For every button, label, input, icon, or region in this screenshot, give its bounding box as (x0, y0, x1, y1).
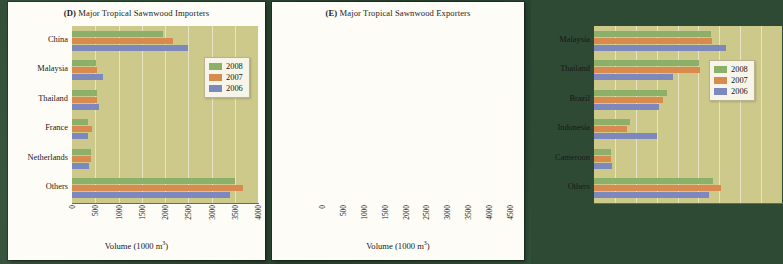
bar-malaysia-2007 (72, 67, 97, 73)
bar-malaysia-2008 (72, 60, 96, 66)
x-axis-title-text-d: Volume (1000 m (105, 241, 163, 251)
bar-china-2008 (72, 31, 163, 37)
gridline (657, 26, 658, 203)
x-axis-title-end-e: ) (427, 241, 430, 251)
bar-brazil-2007 (594, 97, 663, 103)
legend-item-2007: 2007 (714, 75, 748, 86)
gridline (678, 26, 679, 203)
category-label-cameroon: Cameroon (530, 153, 590, 162)
gridline (188, 26, 189, 203)
category-label-netherlands: Netherlands (8, 153, 68, 162)
bar-cameroon-2008 (594, 149, 611, 155)
gridline (636, 26, 637, 203)
bar-thailand-2008 (72, 90, 97, 96)
chart-label-e: (E) (325, 8, 337, 18)
x-tick-4500: 4500 (506, 205, 515, 220)
legend-item-2008: 2008 (209, 61, 243, 72)
plot-area-importers (72, 26, 258, 203)
legend-swatch-2006 (209, 85, 222, 92)
legend-item-2006: 2006 (714, 86, 748, 97)
bar-indonesia-2007 (594, 126, 627, 132)
bar-indonesia-2006 (594, 133, 657, 139)
bar-malaysia-2007 (594, 38, 712, 44)
bar-thailand-2007 (72, 97, 97, 103)
legend-swatch-2007 (209, 74, 222, 81)
legend-label-2006: 2006 (731, 87, 748, 96)
legend-label-2008: 2008 (226, 62, 243, 71)
bar-others-2006 (72, 192, 230, 198)
gridline (235, 26, 236, 203)
legend-label-2007: 2007 (226, 73, 243, 82)
chart-title-text-e: Major Tropical Sawnwood Exporters (337, 8, 470, 18)
category-label-others: Others (530, 182, 590, 191)
x-tick-4000: 4000 (254, 205, 263, 220)
x-tick-4000: 4000 (485, 205, 494, 220)
plot-area-exporters (594, 26, 782, 203)
legend-swatch-2008 (209, 63, 222, 70)
x-tick-1500: 1500 (137, 205, 146, 220)
legend-label-2008: 2008 (731, 65, 748, 74)
category-label-malaysia: Malaysia (8, 64, 68, 73)
gridline (95, 26, 96, 203)
x-tick-500: 500 (338, 205, 347, 216)
chart-label-d: (D) (64, 8, 76, 18)
legend-exporters: 200820072006 (709, 60, 755, 101)
x-axis-title-d: Volume (1000 m3) (8, 240, 265, 251)
x-axis-title-text-e: Volume (1000 m (366, 241, 424, 251)
legend-item-2006: 2006 (209, 83, 243, 94)
category-label-indonesia: Indonesia (530, 123, 590, 132)
gridline (142, 26, 143, 203)
gridline (740, 26, 741, 203)
bar-thailand-2006 (72, 104, 99, 110)
x-axis-title-end-d: ) (165, 241, 168, 251)
gridline (698, 26, 699, 203)
category-label-france: France (8, 123, 68, 132)
bar-others-2008 (594, 178, 713, 184)
chart-panel-exporters: (E) Major Tropical Sawnwood Exporters Ma… (272, 2, 524, 260)
x-tick-1500: 1500 (380, 205, 389, 220)
x-tick-2000: 2000 (401, 205, 410, 220)
gridline (119, 26, 120, 203)
bar-netherlands-2006 (72, 163, 89, 169)
x-tick-3500: 3500 (230, 205, 239, 220)
bar-thailand-2008 (594, 60, 699, 66)
x-tick-0: 0 (318, 205, 327, 209)
bar-china-2007 (72, 38, 173, 44)
x-axis-title-e: Volume (1000 m3) (272, 240, 524, 251)
bar-netherlands-2007 (72, 156, 91, 162)
legend-label-2006: 2006 (226, 84, 243, 93)
x-tick-2000: 2000 (161, 205, 170, 220)
bar-thailand-2006 (594, 74, 673, 80)
chart-title-d: (D) Major Tropical Sawnwood Importers (8, 8, 265, 18)
bar-france-2006 (72, 133, 88, 139)
bar-france-2007 (72, 126, 92, 132)
x-axis-line-e (594, 203, 783, 204)
legend-label-2007: 2007 (731, 76, 748, 85)
legend-swatch-2006 (714, 88, 727, 95)
category-label-malaysia: Malaysia (530, 35, 590, 44)
gridline (719, 26, 720, 203)
legend-swatch-2008 (714, 66, 727, 73)
legend-item-2007: 2007 (209, 72, 243, 83)
x-tick-3000: 3000 (443, 205, 452, 220)
x-tick-3500: 3500 (464, 205, 473, 220)
category-label-china: China (8, 35, 68, 44)
x-tick-1000: 1000 (114, 205, 123, 220)
x-tick-0: 0 (68, 205, 77, 209)
x-tick-1000: 1000 (359, 205, 368, 220)
bar-netherlands-2008 (72, 149, 91, 155)
category-label-thailand: Thailand (530, 64, 590, 73)
bar-indonesia-2008 (594, 119, 630, 125)
gridline (212, 26, 213, 203)
bar-france-2008 (72, 119, 88, 125)
gridline (165, 26, 166, 203)
category-label-thailand: Thailand (8, 94, 68, 103)
legend-item-2008: 2008 (714, 64, 748, 75)
x-tick-3000: 3000 (207, 205, 216, 220)
bar-malaysia-2006 (594, 45, 726, 51)
legend-importers: 200820072006 (204, 57, 250, 98)
bar-others-2007 (594, 185, 721, 191)
chart-title-text-d: Major Tropical Sawnwood Importers (76, 8, 209, 18)
category-label-others: Others (8, 182, 68, 191)
